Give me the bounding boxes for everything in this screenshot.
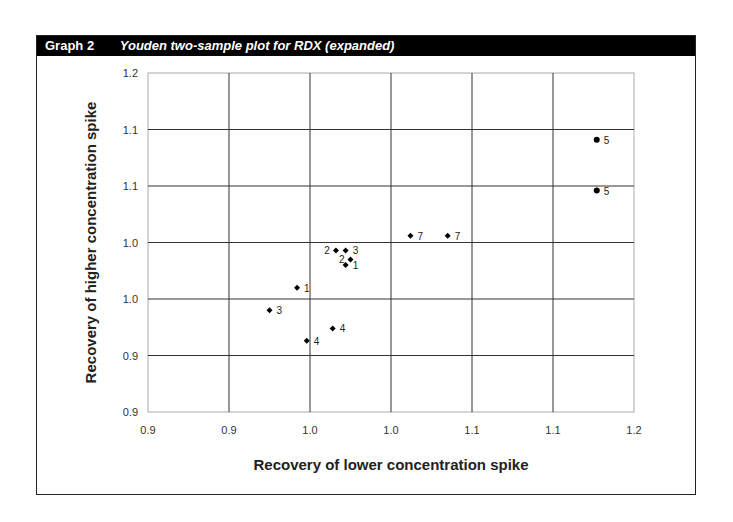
data-point-label: 7 — [417, 231, 423, 242]
y-tick-label: 1.1 — [123, 180, 138, 192]
x-tick-label: 1.0 — [383, 424, 398, 436]
scatter-chart: 0.90.91.01.01.11.11.21.21.11.11.01.00.90… — [0, 0, 733, 522]
data-point-marker — [267, 307, 273, 313]
x-tick-label: 1.1 — [464, 424, 479, 436]
data-point-label: 5 — [604, 186, 610, 197]
data-point-label: 3 — [277, 305, 283, 316]
y-axis-label: Recovery of higher concentration spike — [82, 102, 99, 384]
y-tick-label: 1.0 — [123, 237, 138, 249]
y-tick-label: 1.2 — [123, 67, 138, 79]
data-point-label: 1 — [304, 283, 310, 294]
data-point-marker — [330, 325, 336, 331]
x-tick-label: 0.9 — [221, 424, 236, 436]
data-point-marker — [594, 137, 600, 143]
data-point-label: 2 — [324, 245, 330, 256]
data-point-label: 5 — [604, 135, 610, 146]
x-tick-label: 1.1 — [545, 424, 560, 436]
y-tick-label: 0.9 — [123, 350, 138, 362]
data-point-marker — [594, 188, 600, 194]
data-point-marker — [333, 247, 339, 253]
x-axis-label: Recovery of lower concentration spike — [253, 456, 528, 473]
data-point-marker — [304, 338, 310, 344]
x-tick-label: 1.0 — [302, 424, 317, 436]
y-tick-label: 1.1 — [123, 124, 138, 136]
data-point-marker — [407, 233, 413, 239]
data-point-marker — [294, 285, 300, 291]
x-tick-label: 1.2 — [626, 424, 641, 436]
data-point-label: 3 — [353, 245, 359, 256]
data-point-label: 4 — [314, 336, 320, 347]
y-tick-label: 1.0 — [123, 293, 138, 305]
data-point-label: 7 — [455, 231, 461, 242]
data-point-marker — [343, 247, 349, 253]
data-point-label: 1 — [353, 260, 359, 271]
data-point-label: 4 — [340, 323, 346, 334]
x-tick-label: 0.9 — [140, 424, 155, 436]
y-tick-label: 0.9 — [123, 406, 138, 418]
data-point-marker — [445, 233, 451, 239]
